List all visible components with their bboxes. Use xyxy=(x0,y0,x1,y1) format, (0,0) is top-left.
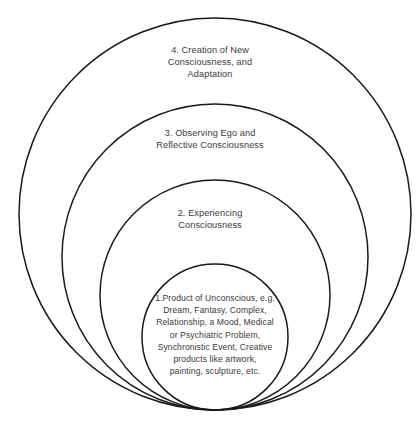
ring-label-4-creation-of-new-consciousness: 4. Creation of New Consciousness, and Ad… xyxy=(110,44,310,80)
ring-label-2-experiencing-consciousness: 2. Experiencing Consciousness xyxy=(130,207,290,231)
ring-label-3-observing-ego: 3. Observing Ego and Reflective Consciou… xyxy=(115,127,305,151)
ring-label-1-product-of-unconscious: 1.Product of Unconscious, e.g. Dream, Fa… xyxy=(143,292,287,377)
consciousness-diagram: 4. Creation of New Consciousness, and Ad… xyxy=(0,0,420,432)
